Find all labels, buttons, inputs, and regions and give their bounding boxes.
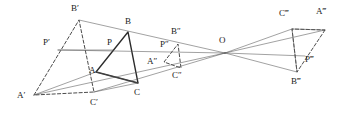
point-label-bpp: B″: [171, 27, 181, 36]
triangle-abc: [96, 32, 138, 83]
figure-canvas: [0, 0, 343, 119]
ray-o-to-c3: [225, 29, 292, 53]
point-label-pp: P′: [43, 38, 50, 47]
ray-o-to-a1: [34, 53, 225, 95]
point-label-appp: A‴: [316, 7, 326, 16]
geometry-figure: ABCPA′B′C′P′A″B″C″P″OA‴B‴C‴P‴: [0, 0, 343, 119]
ray-o-to-a3: [225, 30, 325, 53]
point-label-o: O: [219, 36, 226, 45]
point-label-bp: B′: [71, 4, 79, 13]
point-label-ap: A′: [17, 91, 25, 100]
point-label-a: A: [89, 66, 96, 75]
segment-c1-c: [94, 83, 138, 92]
point-label-cppp: C‴: [279, 9, 289, 18]
ray-o-to-p1: [58, 50, 225, 53]
point-label-pppp: P‴: [305, 55, 314, 64]
ray-o-to-b3: [225, 53, 297, 72]
triangle-a3b3c3: [292, 29, 325, 72]
edge-c3-b3: [292, 29, 297, 72]
point-label-b: B: [125, 17, 131, 26]
ray-o-to-p3: [225, 53, 305, 56]
point-label-cp: C′: [90, 98, 98, 107]
ray-o-to-c1: [94, 53, 225, 92]
point-label-app: A″: [147, 57, 157, 66]
point-label-bppp: B‴: [291, 77, 301, 86]
point-label-ppp: P″: [160, 40, 169, 49]
ray-o-to-b1: [79, 20, 225, 53]
point-label-cpp: C″: [172, 71, 182, 80]
point-label-p: P: [107, 38, 112, 47]
point-label-c: C: [134, 88, 140, 97]
